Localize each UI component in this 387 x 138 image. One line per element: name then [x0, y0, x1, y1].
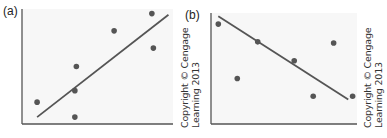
copyright-line-2: Learning 2013 [190, 28, 201, 128]
data-point [72, 114, 78, 120]
data-point [234, 76, 240, 82]
data-point [149, 11, 155, 17]
data-point [72, 88, 78, 94]
copyright-notice-b: Copyright © Cengage Learning 2013 [362, 28, 384, 128]
plot-area [211, 13, 357, 124]
data-point [331, 40, 337, 46]
copyright-notice-a: Copyright © Cengage Learning 2013 [179, 28, 201, 128]
copyright-line-1: Copyright © Cengage [362, 28, 373, 128]
plot-area [22, 9, 173, 124]
data-point [216, 21, 222, 27]
data-point [310, 93, 316, 99]
data-point [74, 64, 80, 70]
data-point [151, 45, 157, 51]
copyright-line-1: Copyright © Cengage [179, 28, 190, 128]
data-point [255, 39, 261, 45]
data-point [350, 93, 356, 99]
copyright-line-2: Learning 2013 [373, 28, 384, 128]
data-point [291, 58, 297, 64]
data-point [111, 28, 117, 34]
data-point [34, 99, 40, 105]
